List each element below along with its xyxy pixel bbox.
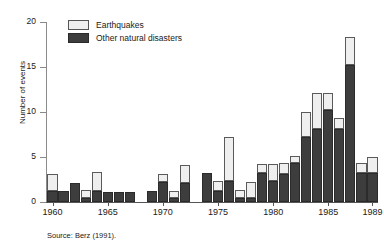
- bar-segment-other-natural-disasters-1984: [312, 129, 322, 202]
- bar-segment-other-natural-disasters-1986: [334, 129, 344, 202]
- chart-figure: Number of events 05101520 19601965197019…: [0, 0, 384, 248]
- bar-segment-other-natural-disasters-1960: [47, 191, 57, 202]
- bar-segment-other-natural-disasters-1985: [323, 110, 333, 202]
- bar-segment-other-natural-disasters-1982: [290, 163, 300, 202]
- bar-1975: [213, 181, 223, 202]
- bar-segment-other-natural-disasters-1974: [202, 173, 212, 202]
- bar-segment-other-natural-disasters-1987: [345, 65, 355, 202]
- bar-segment-earthquakes-1977: [235, 190, 245, 197]
- bar-segment-other-natural-disasters-1980: [268, 181, 278, 202]
- plot-area: [47, 22, 378, 202]
- bar-1964: [92, 172, 102, 202]
- bar-1965: [103, 192, 113, 202]
- x-tick-1960: [53, 203, 54, 206]
- bar-1981: [279, 163, 289, 202]
- bar-1969: [147, 191, 157, 202]
- bar-segment-other-natural-disasters-1962: [70, 183, 80, 202]
- y-tick-label-10: 10: [14, 106, 36, 116]
- legend-item-earthquakes: Earthquakes: [68, 18, 182, 31]
- bar-segment-other-natural-disasters-1988: [356, 173, 366, 202]
- bar-segment-earthquakes-1989: [367, 157, 377, 173]
- chart-legend: Earthquakes Other natural disasters: [68, 18, 182, 44]
- y-tick-5: [40, 157, 47, 158]
- y-axis-label: Number of events: [18, 33, 27, 153]
- bar-1972: [180, 165, 190, 202]
- x-tick-label-1975: 1975: [198, 207, 238, 217]
- bar-1962: [70, 183, 80, 202]
- bar-1985: [323, 93, 333, 202]
- bar-segment-earthquakes-1979: [257, 164, 267, 173]
- bar-segment-other-natural-disasters-1964: [92, 191, 102, 202]
- legend-swatch-other-natural-disasters-icon: [68, 33, 89, 43]
- bar-segment-other-natural-disasters-1975: [213, 191, 223, 202]
- bar-1979: [257, 164, 267, 202]
- y-tick-15: [40, 67, 47, 68]
- bar-segment-other-natural-disasters-1979: [257, 173, 267, 202]
- bar-segment-other-natural-disasters-1972: [180, 183, 190, 202]
- bar-segment-earthquakes-1981: [279, 163, 289, 174]
- x-tick-label-1960: 1960: [33, 207, 73, 217]
- bar-1974: [202, 173, 212, 202]
- source-note: Source: Berz (1991).: [47, 231, 116, 240]
- x-tick-1970: [163, 203, 164, 206]
- bar-segment-earthquakes-1986: [334, 118, 344, 129]
- bar-1980: [268, 164, 278, 202]
- bar-segment-other-natural-disasters-1983: [301, 137, 311, 202]
- bar-segment-other-natural-disasters-1981: [279, 174, 289, 202]
- bar-1986: [334, 118, 344, 202]
- bar-segment-earthquakes-1988: [356, 163, 366, 173]
- x-tick-1989: [372, 203, 373, 206]
- bar-1987: [345, 37, 355, 202]
- x-tick-label-1985: 1985: [308, 207, 348, 217]
- bar-1982: [290, 156, 300, 202]
- bar-segment-earthquakes-1980: [268, 164, 278, 181]
- bar-segment-earthquakes-1976: [224, 137, 234, 181]
- bar-segment-earthquakes-1964: [92, 172, 102, 191]
- bar-segment-other-natural-disasters-1967: [125, 192, 135, 202]
- bar-1978: [246, 182, 256, 202]
- bar-segment-earthquakes-1983: [301, 112, 311, 137]
- x-tick-1985: [328, 203, 329, 206]
- bar-segment-earthquakes-1984: [312, 93, 322, 129]
- bar-segment-earthquakes-1978: [246, 182, 256, 198]
- x-tick-1975: [218, 203, 219, 206]
- bar-1989: [367, 157, 377, 202]
- bar-1977: [235, 190, 245, 202]
- y-tick-label-15: 15: [14, 61, 36, 71]
- bar-segment-earthquakes-1987: [345, 37, 355, 65]
- bar-1960: [47, 174, 57, 202]
- legend-swatch-earthquakes-icon: [68, 20, 89, 30]
- x-tick-label-1970: 1970: [143, 207, 183, 217]
- y-tick-label-20: 20: [14, 16, 36, 26]
- y-tick-label-0: 0: [14, 196, 36, 206]
- x-tick-1980: [273, 203, 274, 206]
- legend-label-other-natural-disasters: Other natural disasters: [96, 33, 182, 43]
- legend-label-earthquakes: Earthquakes: [96, 20, 144, 30]
- bar-segment-earthquakes-1960: [47, 174, 57, 191]
- bar-segment-earthquakes-1972: [180, 165, 190, 183]
- y-tick-20: [40, 22, 47, 23]
- x-tick-label-1989: 1989: [352, 207, 384, 217]
- bar-segment-earthquakes-1971: [169, 191, 179, 198]
- bar-1970: [158, 174, 168, 202]
- bar-segment-other-natural-disasters-1969: [147, 191, 157, 202]
- bar-1976: [224, 137, 234, 202]
- legend-item-other-natural-disasters: Other natural disasters: [68, 31, 182, 44]
- bar-1971: [169, 191, 179, 202]
- bar-segment-other-natural-disasters-1970: [158, 182, 168, 202]
- bar-1966: [114, 192, 124, 202]
- bar-1967: [125, 192, 135, 202]
- bar-segment-earthquakes-1963: [81, 190, 91, 198]
- bar-segment-other-natural-disasters-1961: [58, 191, 68, 202]
- y-tick-label-5: 5: [14, 151, 36, 161]
- y-tick-10: [40, 112, 47, 113]
- bar-segment-earthquakes-1975: [213, 181, 223, 191]
- x-tick-1965: [108, 203, 109, 206]
- x-tick-label-1980: 1980: [253, 207, 293, 217]
- bar-1983: [301, 112, 311, 202]
- bar-segment-earthquakes-1982: [290, 156, 300, 163]
- bar-segment-other-natural-disasters-1965: [103, 192, 113, 202]
- bar-segment-other-natural-disasters-1966: [114, 192, 124, 202]
- x-tick-label-1965: 1965: [88, 207, 128, 217]
- bar-segment-other-natural-disasters-1989: [367, 173, 377, 202]
